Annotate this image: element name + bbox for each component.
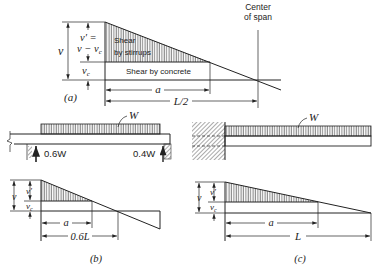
center-label-2: of span [244,12,272,22]
dim-a-label: a [155,83,161,95]
caption-b: (b) [90,253,103,265]
vprime-label-2: v − vc [77,43,103,56]
load-label-c: W [309,111,319,123]
center-label-1: Center [245,2,271,12]
v-label-b: v [12,191,17,202]
caption-c: (c) [294,253,306,265]
caption-a: (a) [64,91,77,104]
vc-label: vc [82,65,91,78]
dim-a-label-c: a [268,217,273,228]
cantilever-beam [225,136,371,146]
left-reaction-label: 0.6W [44,148,66,159]
stirrups-label-1: Shear [114,36,136,45]
vprime-label-c: v′ [210,187,217,197]
diagram-a: Center of span v v′ = v − vc vc Shear by… [58,2,281,108]
dim-half-span-label: L/2 [173,95,189,107]
vprime-label-1: v′ = [80,32,97,43]
vprime-label-b: v′ [26,186,33,196]
left-support-hatch [28,146,32,158]
right-reaction-label: 0.4W [133,148,155,159]
load-label-b: W [129,109,139,121]
right-support-hatch [164,144,171,159]
diagram-b: W 0.6W 0.4W v v′ vc a 0.6L (b) [7,109,171,265]
distributed-load [41,124,160,134]
vc-label-b: vc [26,201,33,212]
stirrups-label-2: by stirrups [114,48,151,57]
dim-span-label-c: L [294,230,301,242]
diagram-c: W v v′ vc a L (c) [192,111,371,265]
shear-diagrams-figure: Center of span v v′ = v − vc vc Shear by… [0,0,380,271]
v-label-c: v [197,192,202,203]
dim-span-label-b: 0.6L [71,231,90,242]
vc-label-c: vc [210,202,217,213]
fixed-wall [192,122,225,160]
shear-line-b [41,180,160,229]
dim-a-label-b: a [63,217,68,228]
concrete-label: Shear by concrete [126,67,191,76]
v-label: v [58,44,64,58]
